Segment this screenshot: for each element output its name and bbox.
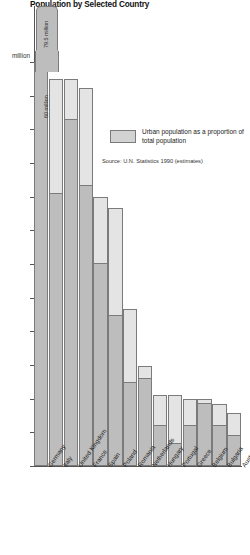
legend-label-urban: Urban population as a proportion of tota… — [142, 128, 246, 145]
bar-germany — [34, 62, 48, 466]
bar-bulgaria — [212, 62, 226, 466]
bar-greece — [183, 62, 197, 466]
y-tick — [30, 466, 34, 467]
source-note: Source: U.N. Statistics 1990 (estimates) — [102, 158, 250, 164]
bar-portugal — [168, 62, 182, 466]
bar-spain — [93, 62, 107, 466]
germany-total-value-label: 79.5 million — [43, 21, 49, 48]
y-axis-unit-label: million — [0, 52, 30, 59]
legend-swatch-urban — [110, 130, 136, 143]
bar-austria — [227, 62, 241, 466]
bar-segment-urban — [79, 185, 93, 466]
germany-broken-bar-marker: 79.5 million 60 million — [34, 6, 60, 76]
bar-segment-urban — [108, 315, 122, 466]
bar-segment-urban — [49, 193, 63, 466]
bar-poland — [108, 62, 122, 466]
bar-united-kingdom — [64, 62, 78, 466]
bar-italy — [49, 62, 63, 466]
plot-area: 051015202530354045505560 GermanyItalyUni… — [34, 62, 242, 466]
bar-hungary — [153, 62, 167, 466]
chart-title: Population by Selected Country — [30, 0, 245, 9]
bar-segment-urban — [64, 119, 78, 466]
bar-belgium — [197, 62, 211, 466]
bar-france — [79, 62, 93, 466]
legend-label-line1: Urban population as a — [142, 128, 206, 135]
chart-container: Population by Selected Country million 0… — [0, 0, 250, 555]
germany-urban-value-label: 60 million — [43, 95, 49, 118]
bar-netherlands — [138, 62, 152, 466]
bar-segment-urban — [34, 62, 48, 466]
bar-romania — [123, 62, 137, 466]
